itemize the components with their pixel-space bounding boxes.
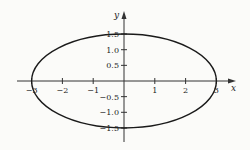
y-tick-label: −1.5 [100, 124, 119, 133]
x-tick-label: 2 [183, 86, 188, 95]
ellipse-chart: xy −3−2−11231.51.00.5−0.5−1.0−1.5 [0, 0, 250, 150]
y-tick-label: −0.5 [100, 93, 119, 102]
y-tick-label: 1.5 [106, 30, 119, 39]
x-tick-label: −2 [57, 86, 69, 95]
x-tick-label: 3 [214, 86, 219, 95]
y-axis-arrow-icon [122, 11, 127, 19]
x-axis-label: x [231, 83, 236, 93]
y-tick-label: 1.0 [106, 46, 119, 55]
y-tick-label: −1.0 [100, 108, 119, 117]
y-axis-label: y [113, 10, 120, 20]
x-tick-label: −1 [87, 86, 99, 95]
x-tick-label: −3 [26, 86, 38, 95]
axes: xy [17, 10, 236, 142]
x-tick-label: 1 [152, 86, 157, 95]
y-tick-label: 0.5 [106, 61, 119, 70]
